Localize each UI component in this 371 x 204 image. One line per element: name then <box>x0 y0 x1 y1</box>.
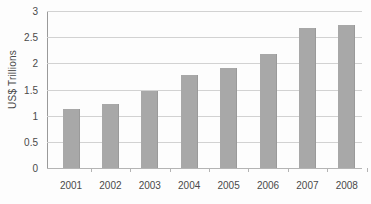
bar-chart: US$ Trillions 3 2.5 2 1.5 1 0.5 0 200120… <box>0 0 371 204</box>
x-tick-label: 2004 <box>169 180 209 191</box>
bar <box>181 75 198 168</box>
bar <box>338 25 355 168</box>
y-tick-label: 1.5 <box>24 84 38 95</box>
x-tick-mark <box>130 168 131 172</box>
bar <box>63 109 80 168</box>
bar <box>102 104 119 168</box>
x-tick-mark <box>327 168 328 172</box>
x-axis-baseline <box>47 168 362 169</box>
x-tick-mark <box>91 168 92 172</box>
bar <box>141 91 158 168</box>
x-tick-mark <box>288 168 289 172</box>
y-tick-label: 1 <box>32 110 38 121</box>
gridline <box>47 11 362 12</box>
x-tick-label: 2001 <box>51 180 91 191</box>
y-tick-label: 2.5 <box>24 32 38 43</box>
x-tick-label: 2007 <box>287 180 327 191</box>
y-tick-label: 0 <box>32 163 38 174</box>
x-tick-label: 2005 <box>209 180 249 191</box>
x-tick-label: 2008 <box>327 180 367 191</box>
x-tick-mark <box>170 168 171 172</box>
x-tick-label: 2006 <box>248 180 288 191</box>
plot-area <box>47 11 362 168</box>
bar <box>220 68 237 168</box>
x-tick-mark <box>209 168 210 172</box>
bar <box>260 54 277 168</box>
x-tick-mark <box>248 168 249 172</box>
x-tick-mark <box>367 168 368 172</box>
y-tick-label: 0.5 <box>24 136 38 147</box>
y-axis-tick-labels: 3 2.5 2 1.5 1 0.5 0 <box>0 11 42 169</box>
bar <box>299 28 316 168</box>
x-tick-label: 2003 <box>130 180 170 191</box>
x-tick-label: 2002 <box>90 180 130 191</box>
y-tick-label: 2 <box>32 58 38 69</box>
y-tick-label: 3 <box>32 6 38 17</box>
